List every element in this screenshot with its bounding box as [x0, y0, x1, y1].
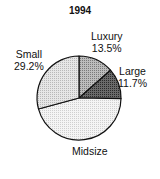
label-small-pct: 29.2%	[14, 60, 44, 72]
label-small-name: Small	[14, 48, 44, 60]
label-small: Small 29.2%	[14, 48, 44, 72]
label-luxury: Luxury 13.5%	[91, 30, 123, 54]
label-luxury-name: Luxury	[91, 30, 123, 42]
label-luxury-pct: 13.5%	[91, 42, 123, 54]
label-large-pct: 11.7%	[118, 77, 147, 89]
label-large-name: Large	[118, 65, 147, 77]
label-midsize: Midsize	[72, 145, 108, 157]
label-large: Large 11.7%	[118, 65, 147, 89]
label-midsize-name: Midsize	[72, 145, 108, 157]
